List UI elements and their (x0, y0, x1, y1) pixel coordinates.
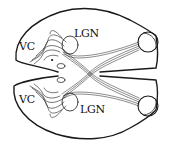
visual-pathway-diagram: VC VC LGN LGN (0, 0, 169, 149)
label-lgn-top: LGN (74, 28, 99, 39)
midline-body-lower (57, 78, 65, 83)
label-lgn-bottom: LGN (80, 104, 105, 115)
label-vc-top: VC (19, 41, 35, 52)
midline-body-upper (57, 64, 65, 69)
top-eye (138, 32, 158, 52)
optic-tracts (62, 42, 139, 106)
top-hemisphere-outline (16, 9, 158, 72)
top-optic-radiation (30, 31, 66, 64)
bottom-eye (138, 96, 158, 116)
brain-outline-drawing (0, 0, 169, 149)
center-dot (51, 59, 52, 60)
label-vc-bottom: VC (19, 94, 35, 105)
bottom-optic-radiation (30, 84, 66, 117)
